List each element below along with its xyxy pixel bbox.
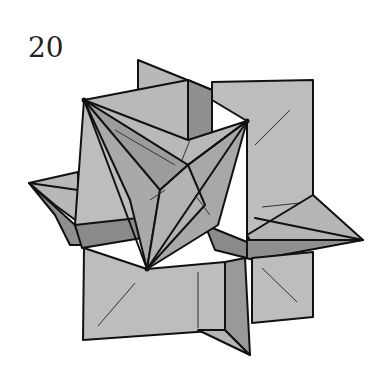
- pinch-vertex-top-left: [82, 98, 87, 103]
- pinch-vertex-bottom: [145, 267, 150, 272]
- origami-diagram: [0, 0, 388, 372]
- pinch-vertex-top-right: [245, 119, 250, 124]
